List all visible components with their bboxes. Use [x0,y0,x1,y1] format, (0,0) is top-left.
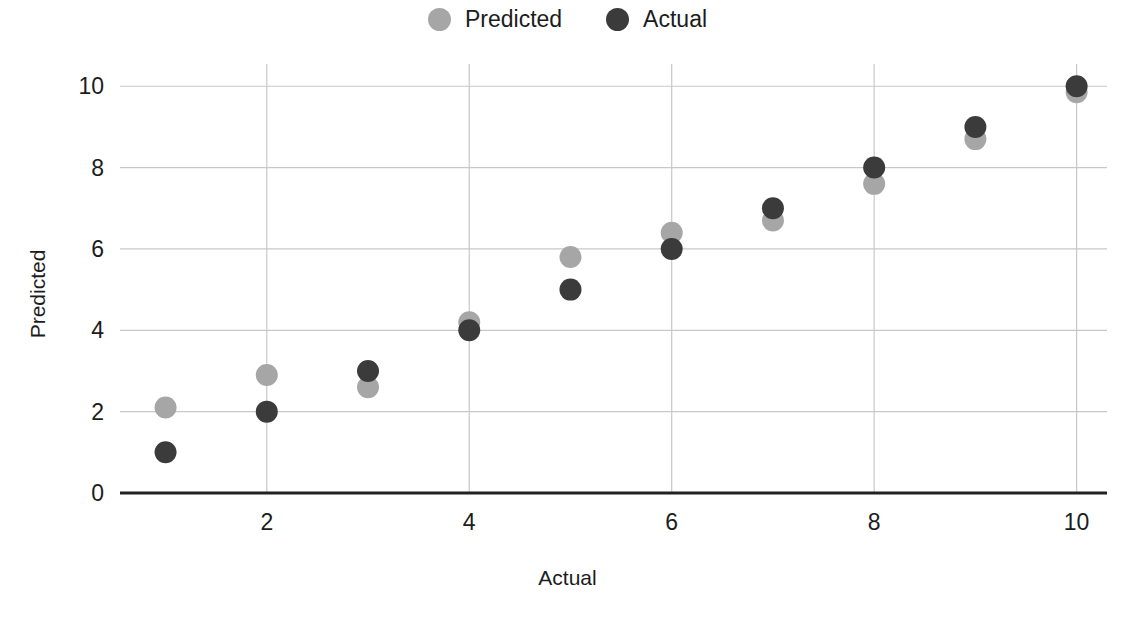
data-point-actual [964,116,986,138]
data-point-actual [1066,75,1088,97]
x-tick-label: 8 [868,511,881,534]
data-point-actual [559,279,581,301]
y-tick-label: 0 [34,482,104,505]
x-tick-label: 6 [665,511,678,534]
series-points-predicted [155,81,1088,418]
plot-svg [0,0,1135,624]
data-point-actual [155,441,177,463]
x-tick-label: 4 [463,511,476,534]
y-tick-label: 10 [34,75,104,98]
y-axis-title: Predicted [26,194,50,394]
gridlines-vertical [267,64,1077,493]
x-axis-title: Actual [0,566,1135,590]
data-point-actual [357,360,379,382]
plot-area: 0246810 246810 [0,0,1135,624]
scatter-chart: Predicted Actual 0246810 246810 Actual P… [0,0,1135,624]
data-point-actual [458,319,480,341]
data-point-actual [661,238,683,260]
series-points-actual [155,75,1088,463]
x-tick-label: 10 [1064,511,1090,534]
data-point-predicted [256,364,278,386]
data-point-predicted [155,397,177,419]
data-point-actual [863,157,885,179]
data-point-predicted [559,246,581,268]
data-point-actual [762,197,784,219]
data-point-actual [256,401,278,423]
gridlines-horizontal [120,86,1107,411]
y-tick-label: 8 [34,156,104,179]
y-tick-label: 2 [34,400,104,423]
x-tick-label: 2 [260,511,273,534]
